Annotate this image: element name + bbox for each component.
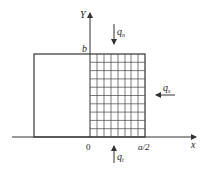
y-tick-b: b (82, 43, 87, 54)
load-label-right: qs (163, 82, 171, 94)
origin-label: 0 (86, 142, 91, 152)
load-label-bottom: qt (117, 151, 124, 163)
y-axis-label: Y (80, 9, 87, 20)
mesh-grid (90, 54, 145, 137)
x-axis-label: x (190, 139, 196, 150)
x-tick-a-half: a/2 (138, 142, 150, 152)
load-label-top: qn (117, 26, 125, 38)
plate-diagram: Y x b 0 a/2 qn qs qt (0, 0, 207, 171)
